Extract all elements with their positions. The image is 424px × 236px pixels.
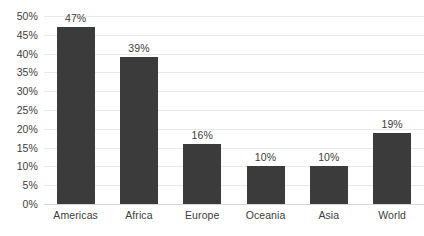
y-tick-label-45: 45% bbox=[17, 29, 38, 41]
y-tick-label-35: 35% bbox=[17, 66, 38, 78]
bar-chart: 50% 45% 40% 35% 30% 25% 20% 15% 10% 5% 0… bbox=[0, 0, 424, 236]
y-axis: 50% 45% 40% 35% 30% 25% 20% 15% 10% 5% 0… bbox=[0, 0, 44, 236]
bar-slot-oceania: 10% Oceania bbox=[234, 0, 297, 236]
category-label-americas: Americas bbox=[53, 209, 98, 221]
y-tick-label-10: 10% bbox=[17, 160, 38, 172]
bar-value-europe: 16% bbox=[192, 129, 213, 141]
category-label-world: World bbox=[378, 209, 406, 221]
bar-value-asia: 10% bbox=[318, 151, 339, 163]
y-tick-label-15: 15% bbox=[17, 142, 38, 154]
y-tick-label-25: 25% bbox=[17, 104, 38, 116]
bar-value-africa: 39% bbox=[128, 42, 149, 54]
bar-europe[interactable] bbox=[183, 144, 221, 204]
category-label-asia: Asia bbox=[318, 209, 339, 221]
bar-americas[interactable] bbox=[57, 27, 95, 204]
y-tick-label-40: 40% bbox=[17, 48, 38, 60]
bar-oceania[interactable] bbox=[247, 166, 285, 204]
bars-layer: 47% Americas 39% Africa 16% Europe 10% O… bbox=[44, 0, 424, 236]
bar-world[interactable] bbox=[373, 133, 411, 204]
bar-value-oceania: 10% bbox=[255, 151, 276, 163]
category-label-oceania: Oceania bbox=[246, 209, 286, 221]
y-tick-label-5: 5% bbox=[23, 179, 38, 191]
category-label-africa: Africa bbox=[125, 209, 152, 221]
y-tick-label-20: 20% bbox=[17, 123, 38, 135]
bar-value-americas: 47% bbox=[65, 12, 86, 24]
bar-slot-europe: 16% Europe bbox=[171, 0, 234, 236]
y-tick-label-0: 0% bbox=[23, 198, 38, 210]
bar-africa[interactable] bbox=[120, 57, 158, 204]
bar-asia[interactable] bbox=[310, 166, 348, 204]
category-label-europe: Europe bbox=[185, 209, 219, 221]
bar-slot-asia: 10% Asia bbox=[297, 0, 360, 236]
y-tick-label-30: 30% bbox=[17, 85, 38, 97]
bar-value-world: 19% bbox=[381, 118, 402, 130]
bar-slot-africa: 39% Africa bbox=[107, 0, 170, 236]
bar-slot-americas: 47% Americas bbox=[44, 0, 107, 236]
y-tick-label-50: 50% bbox=[17, 10, 38, 22]
bar-slot-world: 19% World bbox=[361, 0, 424, 236]
